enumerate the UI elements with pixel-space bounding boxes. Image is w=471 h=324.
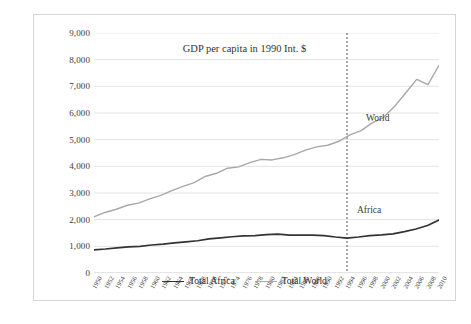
y-axis-tick-label: 5,000 xyxy=(69,135,90,145)
legend-swatch-total-world xyxy=(255,281,277,282)
chart-frame: GDP per capita in 1990 Int. $ 01,0002,00… xyxy=(33,14,456,301)
y-axis-tick-label: 1,000 xyxy=(69,241,90,251)
y-axis-tick-label: 7,000 xyxy=(69,81,90,91)
series-line-total-africa xyxy=(94,220,439,250)
y-axis-tick-label: 6,000 xyxy=(69,108,90,118)
y-axis-tick-label: 2,000 xyxy=(69,215,90,225)
plot-area xyxy=(94,33,439,273)
y-axis-tick-label: 4,000 xyxy=(69,161,90,171)
series-line-total-world xyxy=(94,65,439,216)
legend-item-total-africa: Total Africa xyxy=(162,276,235,286)
y-axis-tick-label: 8,000 xyxy=(69,55,90,65)
chart-canvas xyxy=(94,33,439,273)
gridlines xyxy=(94,33,439,273)
legend-label-total-africa: Total Africa xyxy=(189,276,235,286)
legend-swatch-total-africa xyxy=(162,281,184,282)
chart-legend: Total Africa Total World xyxy=(34,276,455,286)
annotation-world: World xyxy=(366,113,390,123)
chart-screenshot: GDP per capita in 1990 Int. $ 01,0002,00… xyxy=(0,0,471,324)
y-axis-tick-label: 9,000 xyxy=(69,28,90,38)
annotation-africa: Africa xyxy=(357,205,381,215)
legend-label-total-world: Total World xyxy=(282,276,327,286)
legend-item-total-world: Total World xyxy=(255,276,327,286)
y-axis-tick-labels: 01,0002,0003,0004,0005,0006,0007,0008,00… xyxy=(34,33,90,273)
y-axis-tick-label: 3,000 xyxy=(69,188,90,198)
